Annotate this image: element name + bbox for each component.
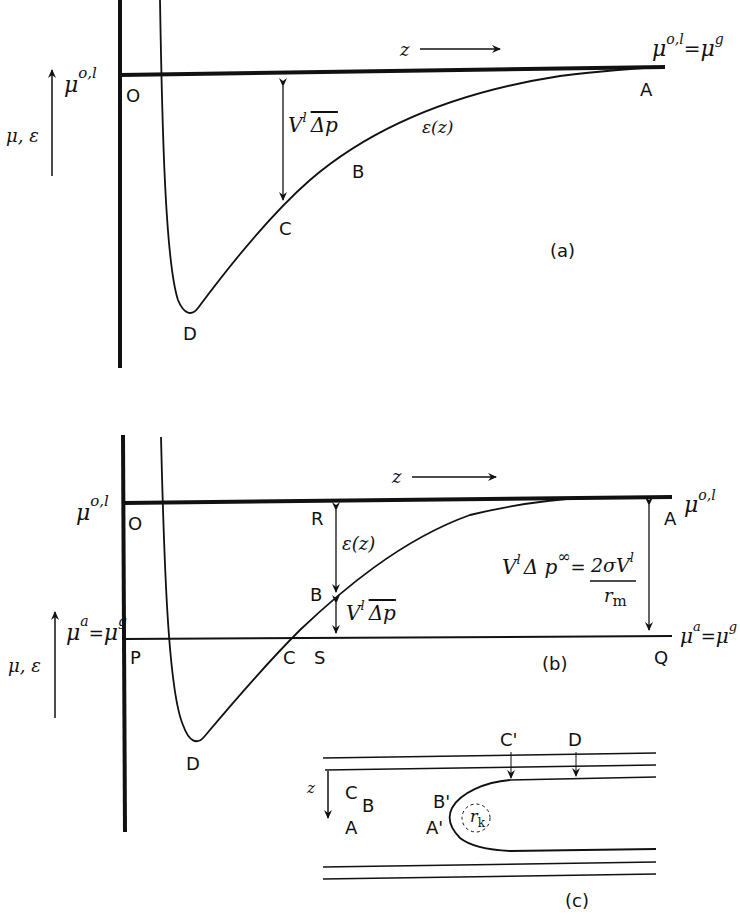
panel-b-vertical-axis [123, 435, 125, 832]
panel-b-point-D: D [186, 753, 200, 774]
panel-a-epsilon-curve [160, 0, 662, 313]
panel-a-pressure-label: VlΔp [288, 110, 338, 137]
panel-c-film-top [510, 777, 656, 780]
panel-b-right-top-label: μo,l [684, 487, 716, 517]
panel-c-wall-bottom-inner [323, 862, 656, 867]
panel-b-right-lower-label: μa=μg [680, 619, 737, 648]
panel-c-caption: (c) [565, 890, 589, 911]
panel-a-point-D: D [183, 323, 197, 344]
panel-c-wall-bottom-outer [323, 874, 656, 879]
panel-b-epsilon-label: ε(z) [342, 533, 375, 554]
panel-b-caption: (b) [542, 653, 567, 674]
panel-b-point-P: P [130, 647, 141, 668]
panel-b-laplace-numerator: 2σVl [590, 550, 634, 576]
panel-a-z-label: z [399, 39, 410, 60]
panel-c-wall-top-inner [325, 765, 656, 770]
panel-b-z-label: z [391, 466, 402, 487]
figure: μo,l μ, ε O VlΔp B C D ε(z) z μo,l=μg A … [0, 0, 740, 921]
panel-b: μo,l O R ε(z) B VlΔp μa=μg μ, ε P C S D … [8, 435, 737, 832]
panel-a-point-C: C [279, 218, 292, 239]
panel-b-point-C: C [283, 647, 296, 668]
panel-a-y-axis-label: μ, ε [6, 125, 39, 146]
panel-a-point-O: O [126, 85, 140, 106]
panel-b-laplace-equation-lhs: VlΔ p∞= [502, 547, 586, 579]
panel-b-point-S: S [314, 647, 325, 668]
figure-canvas: μo,l μ, ε O VlΔp B C D ε(z) z μo,l=μg A … [0, 0, 740, 921]
panel-c-point-D: D [568, 729, 582, 750]
panel-b-top-level-label: μo,l [76, 492, 109, 525]
panel-c-point-C: C [345, 782, 358, 803]
panel-a-point-B: B [352, 161, 364, 182]
panel-b-pressure-label: VlΔp [346, 598, 396, 625]
panel-a: μo,l μ, ε O VlΔp B C D ε(z) z μo,l=μg A … [6, 0, 724, 368]
panel-c: z C B A B' A' C' D rk (c) [306, 729, 656, 911]
panel-b-point-B: B [310, 584, 322, 605]
panel-b-mu-ol-line [123, 497, 672, 503]
panel-a-point-A: A [640, 79, 653, 100]
panel-c-point-A: A [345, 817, 358, 838]
panel-b-point-R: R [311, 508, 324, 529]
panel-b-point-Q: Q [654, 647, 668, 668]
panel-c-point-A-prime: A' [426, 817, 443, 838]
panel-b-laplace-denominator: rm [604, 585, 627, 610]
panel-c-z-label: z [306, 779, 315, 797]
panel-a-curve-label: ε(z) [422, 117, 453, 137]
panel-c-point-B: B [362, 795, 374, 816]
panel-b-epsilon-curve [161, 437, 585, 741]
panel-c-point-B-prime: B' [433, 791, 450, 812]
panel-c-radius-label: rk [470, 807, 486, 830]
panel-b-point-A: A [664, 508, 677, 529]
panel-b-lower-level-label: μa=μg [66, 613, 127, 645]
panel-a-caption: (a) [550, 240, 575, 261]
panel-c-wall-top-outer [323, 753, 656, 758]
panel-a-right-level-label: μo,l=μg [652, 31, 724, 61]
panel-a-top-level-label: μo,l [64, 64, 97, 97]
panel-b-mu-a-line [123, 636, 672, 639]
panel-b-y-axis-label: μ, ε [8, 655, 41, 676]
panel-b-point-O: O [128, 513, 142, 534]
panel-c-point-C-prime: C' [500, 729, 518, 750]
